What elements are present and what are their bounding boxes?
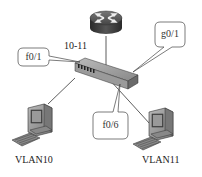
diagram-svg bbox=[0, 0, 202, 177]
router-icon[interactable] bbox=[90, 11, 122, 34]
computer-icon-vlan11[interactable] bbox=[133, 108, 173, 150]
network-diagram: 10-11 f0/1 g0/1 f0/6 VLAN10 VLAN11 bbox=[0, 0, 202, 177]
callout-f01-text: f0/1 bbox=[18, 51, 49, 62]
link-switch-pc-left bbox=[48, 78, 75, 104]
pc-right-label: VLAN11 bbox=[142, 154, 179, 165]
pc-left-label: VLAN10 bbox=[15, 154, 53, 165]
callout-f06-text: f0/6 bbox=[93, 119, 128, 130]
callout-g01-text: g0/1 bbox=[155, 28, 185, 39]
computer-icon-vlan10[interactable] bbox=[12, 104, 52, 146]
switch-label: 10-11 bbox=[64, 40, 87, 51]
switch-icon[interactable] bbox=[75, 58, 138, 89]
callout-f06 bbox=[93, 84, 128, 139]
